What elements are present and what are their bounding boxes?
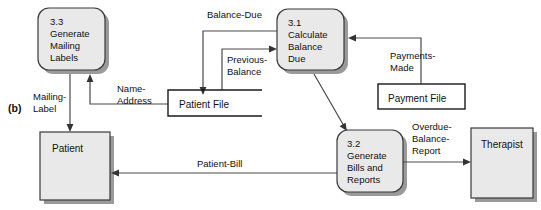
flow-balance-due-to-bills-line [314,74,344,126]
flow-overdue-balance-report-label-line1: Overdue- [412,121,452,132]
process-3-3-number: 3.3 [50,16,63,27]
figure-part-label: (b) [8,102,21,114]
diagram-canvas: 3.3 Generate Mailing Labels 3.1 Calculat… [0,0,541,210]
flow-previous-balance-arrowhead [269,46,277,53]
flow-overdue-balance-report-label-line3: Report [412,145,441,156]
process-3-1-number: 3.1 [288,17,301,28]
data-flow-diagram: 3.3 Generate Mailing Labels 3.1 Calculat… [0,0,541,210]
flow-payments-made-arrowhead [348,35,356,42]
flow-name-address-arrowhead [87,74,94,82]
process-3-1-line1: Calculate [288,29,328,40]
entity-therapist-label: Therapist [481,139,523,150]
datastore-payment-file-label: Payment File [388,93,447,104]
process-3-3-line2: Mailing [50,40,80,51]
process-3-2-line2: Bills and [347,162,383,173]
flow-balance-due-arrowhead [200,87,207,95]
flow-payments-made-label-line2: Made [390,62,414,73]
flow-payments-made-line [353,38,421,84]
flow-mailing-label-label-line2: Label [33,103,56,114]
flow-overdue-balance-report-label-line2: Balance- [412,133,450,144]
flow-name-address-label-line2: Address [117,95,152,106]
flow-balance-due-label: Balance-Due [207,9,262,20]
flow-previous-balance-label-line2: Balance [227,66,261,77]
flow-patient-bill-label: Patient-Bill [197,158,242,169]
process-3-1-line3: Due [288,53,305,64]
flow-previous-balance-label-line1: Previous- [227,54,267,65]
flow-name-address-label-line1: Name- [117,83,146,94]
process-3-2-number: 3.2 [347,138,360,149]
datastore-patient-file-label: Patient File [179,99,229,110]
process-3-2-line3: Reports [347,174,381,185]
process-3-3-line3: Labels [50,52,78,63]
process-3-3-line1: Generate [50,28,90,39]
process-3-2-line1: Generate [347,150,387,161]
flow-mailing-label-arrowhead [67,124,74,132]
process-3-1-line2: Balance [288,41,322,52]
entity-patient-label: Patient [52,143,83,154]
flow-payments-made-label-line1: Payments- [390,50,435,61]
flow-overdue-balance-report-arrowhead [463,159,471,166]
flow-mailing-label-label-line1: Mailing- [33,91,66,102]
